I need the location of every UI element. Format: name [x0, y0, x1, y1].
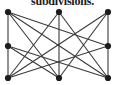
- graph-vertex: [56, 9, 62, 15]
- figure-root: subdivisions.: [0, 0, 125, 85]
- graph-vertex: [5, 43, 11, 49]
- graph-vertex: [5, 9, 11, 15]
- graph-vertex: [56, 75, 62, 81]
- graph-edge: [8, 12, 108, 46]
- graph-vertex: [105, 43, 111, 49]
- graph-vertex: [105, 75, 111, 81]
- graph-drawing: [0, 0, 125, 85]
- graph-vertex: [105, 9, 111, 15]
- edge-layer: [8, 12, 108, 78]
- graph-vertex: [5, 75, 11, 81]
